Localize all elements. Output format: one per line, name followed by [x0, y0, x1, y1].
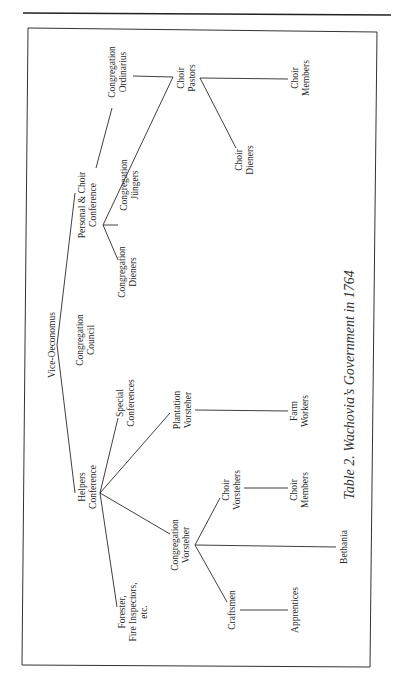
node-label: Choir [176, 64, 187, 91]
node-congregation-ordinarius: Congregation Ordinarius [107, 46, 129, 98]
node-label: Fire Inspectors, [128, 582, 139, 641]
node-label: Plantation [172, 391, 183, 430]
edge-ordinarius-to-pastors [133, 76, 173, 77]
edge-vorsteher-to-craftsmen [195, 545, 227, 602]
node-congregation-dieners: Congregation Dieners [117, 246, 139, 298]
node-label: Congregation [170, 519, 181, 571]
node-label: Congregation [119, 159, 130, 211]
node-label: Vice-Oeconomus [47, 312, 58, 378]
node-apprentices: Apprentices [290, 587, 301, 633]
node-choir-members-bottom: Choir Members [289, 472, 311, 508]
edge-personal-to-ordinarius [96, 108, 112, 168]
node-label: Apprentices [290, 587, 301, 633]
edge-helpers-to-vorsteher [100, 493, 170, 534]
node-label: Congregation [117, 246, 128, 298]
node-label: Conferences [126, 379, 137, 426]
node-label: Craftsmen [227, 590, 238, 630]
edge-vice-to-personal [57, 193, 75, 345]
node-special-conferences: Special Conferences [115, 379, 137, 426]
edge-pastors-to-members [200, 78, 288, 79]
edge-vorsteher-to-choir-vorstehers [195, 498, 220, 545]
node-label: Ordinarius [118, 46, 129, 98]
node-plantation-vorsteher: Plantation Vorsteher [172, 391, 194, 430]
node-forester: Forester, Fire Inspectors, etc. [117, 582, 150, 641]
edge-helpers-to-forester [100, 493, 117, 607]
node-choir-diener: Choir Dieners [234, 145, 256, 175]
node-vice-oeconomus: Vice-Oeconomus [47, 312, 58, 378]
node-label: Conference [88, 172, 99, 239]
edge-plantation-to-farm [195, 410, 288, 411]
node-label: Jüngers [130, 159, 141, 211]
header-rule [23, 13, 391, 15]
node-farm-workers: Farm Workers [289, 395, 311, 427]
node-label: Pastors [187, 64, 198, 91]
table-caption: Table 2. Wachovia’s Government in 1764 [342, 270, 358, 500]
edge-vorsteher-to-bethania [195, 545, 336, 547]
node-label: Choir [290, 60, 301, 96]
node-label: Dieners [245, 145, 256, 175]
node-label: Vorsteher [181, 519, 192, 571]
book-page: Vice-Oeconomus Congregation Council Pers… [0, 0, 397, 687]
node-label: Personal & Choir [77, 172, 88, 239]
edge-vice-to-helpers [57, 345, 75, 493]
node-label: Members [300, 472, 311, 508]
node-label: Forester, [117, 582, 128, 641]
node-congregation-vorsteher: Congregation Vorsteher [170, 519, 192, 571]
node-choir-pastors: Choir Pastors [176, 64, 198, 91]
node-label: Dieners [128, 246, 139, 298]
node-label: Congregation [75, 314, 86, 366]
node-congregation-jungers: Congregation Jüngers [119, 159, 141, 211]
node-congregation-council: Congregation Council [75, 314, 97, 366]
edge-pastors-to-diener [200, 78, 236, 148]
node-label: Special [115, 379, 126, 426]
node-personal-choir-conference: Personal & Choir Conference [77, 172, 99, 239]
node-label: Choir [234, 145, 245, 175]
node-label: Helpers [77, 465, 88, 509]
node-choir-members-top: Choir Members [290, 60, 312, 96]
edge-personal-to-dieners [103, 225, 118, 260]
node-helpers-conference: Helpers Conference [77, 465, 99, 509]
node-label: Choir [221, 470, 232, 510]
node-bethania: Bethania [339, 530, 350, 564]
node-label: Bethania [339, 530, 350, 564]
diagram-lines [0, 0, 397, 687]
node-label: Farm [289, 395, 300, 427]
node-label: Council [86, 314, 97, 366]
node-label: Vorsteher [183, 391, 194, 430]
node-craftsmen: Craftsmen [227, 590, 238, 630]
node-choir-vorstehers: Choir Vorstehers [221, 470, 243, 510]
node-label: Workers [300, 395, 311, 427]
node-label: Choir [289, 472, 300, 508]
edge-helpers-to-special [100, 418, 118, 493]
node-label: Members [301, 60, 312, 96]
node-label: etc. [139, 582, 150, 641]
node-label: Vorstehers [232, 470, 243, 510]
node-label: Congregation [107, 46, 118, 98]
node-label: Conference [88, 465, 99, 509]
